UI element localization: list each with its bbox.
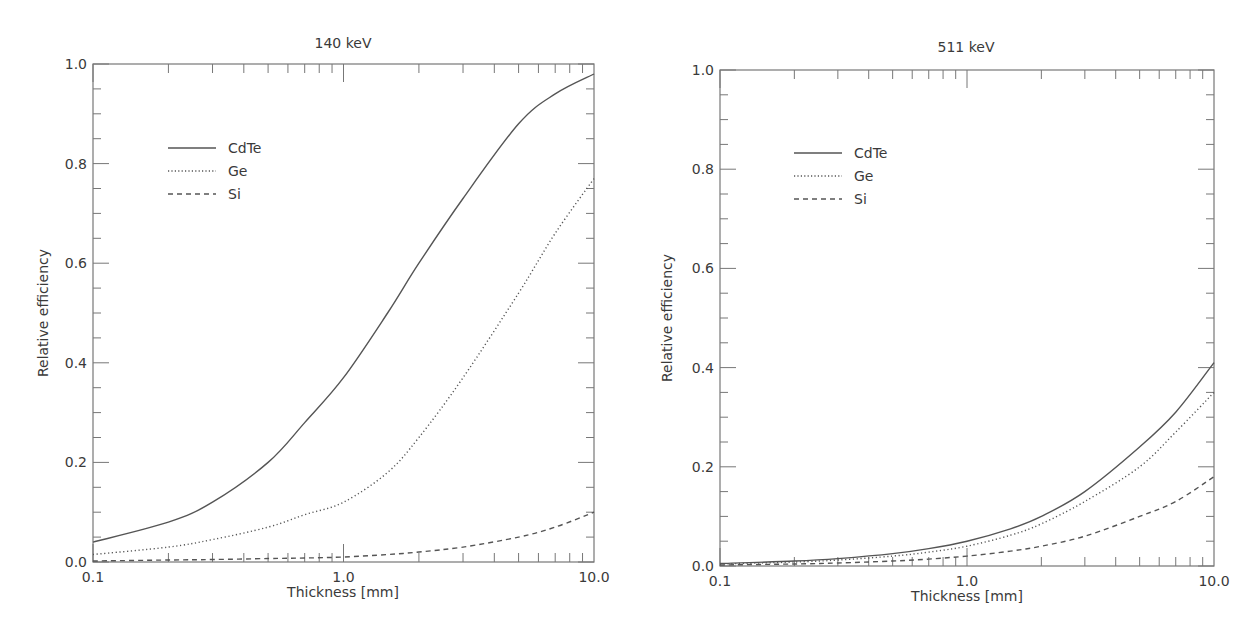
- y-tick-labels: 0.00.20.40.60.81.0: [692, 62, 714, 574]
- y-tick-label: 0.4: [692, 360, 714, 376]
- y-tick-label: 0.0: [692, 558, 714, 574]
- y-tick-label: 0.8: [692, 161, 714, 177]
- curve-cdte: [720, 363, 1214, 564]
- y-tick-label: 0.6: [65, 255, 87, 271]
- data-curves: [720, 363, 1214, 565]
- plot-title: 511 keV: [938, 39, 995, 55]
- legend: CdTe Ge Si: [168, 140, 261, 202]
- legend-label-ge: Ge: [854, 168, 873, 184]
- legend-label-cdte: CdTe: [854, 145, 887, 161]
- x-axis-title: Thickness [mm]: [910, 588, 1023, 604]
- y-tick-label: 1.0: [692, 62, 714, 78]
- y-tick-labels: 0.00.20.40.60.81.0: [65, 56, 87, 570]
- plot-title: 140 keV: [315, 35, 372, 51]
- figure: 140 keV 0.00.20.40.60.81.0 0.11.010.0 Th…: [0, 0, 1253, 629]
- legend: CdTe Ge Si: [794, 145, 887, 207]
- panel-511kev: 511 keV 0.00.20.40.60.81.0 0.11.010.0 Th…: [659, 39, 1230, 604]
- y-axis-title: Relative efficiency: [659, 254, 675, 382]
- y-axis-title: Relative efficiency: [35, 249, 51, 377]
- axis-ticks: [720, 70, 1214, 566]
- x-tick-labels: 0.11.010.0: [82, 569, 610, 585]
- legend-label-si: Si: [854, 191, 867, 207]
- x-tick-label: 0.1: [709, 573, 731, 589]
- curve-ge: [720, 392, 1214, 564]
- x-tick-label: 0.1: [82, 569, 104, 585]
- x-axis-title: Thickness [mm]: [286, 584, 399, 600]
- y-tick-label: 0.2: [65, 454, 87, 470]
- x-tick-labels: 0.11.010.0: [709, 573, 1230, 589]
- y-tick-label: 1.0: [65, 56, 87, 72]
- legend-label-si: Si: [228, 186, 241, 202]
- y-tick-label: 0.6: [692, 260, 714, 276]
- plot-frame: [93, 64, 594, 562]
- y-tick-label: 0.8: [65, 156, 87, 172]
- x-tick-label: 1.0: [956, 573, 978, 589]
- x-tick-label: 10.0: [1198, 573, 1229, 589]
- data-curves: [93, 74, 594, 561]
- panel-140kev: 140 keV 0.00.20.40.60.81.0 0.11.010.0 Th…: [35, 35, 610, 600]
- curve-cdte: [93, 74, 594, 542]
- y-tick-label: 0.0: [65, 554, 87, 570]
- y-tick-label: 0.2: [692, 459, 714, 475]
- x-tick-label: 10.0: [578, 569, 609, 585]
- x-tick-label: 1.0: [332, 569, 354, 585]
- y-tick-label: 0.4: [65, 355, 87, 371]
- curve-ge: [93, 179, 594, 555]
- legend-label-ge: Ge: [228, 163, 247, 179]
- plot-frame: [720, 70, 1214, 566]
- legend-label-cdte: CdTe: [228, 140, 261, 156]
- axis-ticks: [93, 64, 594, 562]
